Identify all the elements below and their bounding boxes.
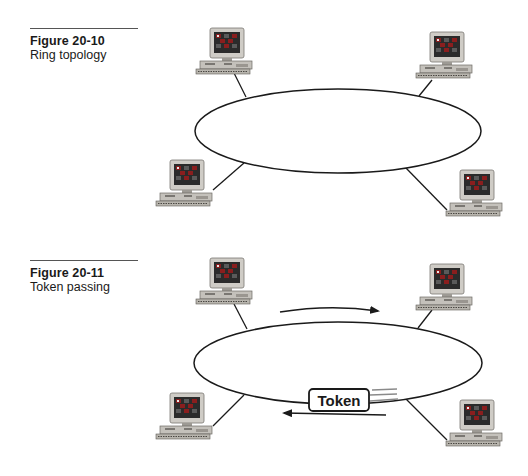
ring-cable bbox=[195, 89, 481, 173]
token-badge: Token bbox=[309, 389, 369, 411]
computer-workstation-icon bbox=[416, 32, 472, 78]
arrow-icon bbox=[280, 308, 378, 312]
arrow-icon bbox=[284, 413, 386, 415]
token-label: Token bbox=[317, 392, 360, 409]
link-line bbox=[234, 304, 247, 329]
link-line bbox=[418, 310, 432, 328]
computer-workstation-icon bbox=[446, 400, 502, 446]
link-line bbox=[234, 73, 246, 97]
computer-workstation-icon bbox=[156, 160, 212, 206]
computer-workstation-icon bbox=[446, 170, 502, 216]
computer-workstation-icon bbox=[196, 28, 252, 74]
ring-topology-diagram bbox=[156, 28, 502, 216]
token-passing-diagram: Token bbox=[156, 258, 502, 446]
link-line bbox=[213, 395, 244, 426]
link-line bbox=[213, 163, 244, 190]
link-line bbox=[405, 398, 447, 440]
computer-workstation-icon bbox=[156, 393, 212, 439]
link-line bbox=[405, 167, 447, 210]
link-line bbox=[419, 80, 432, 96]
computer-workstation-icon bbox=[196, 258, 252, 304]
computer-workstation-icon bbox=[416, 264, 472, 310]
network-diagrams: Token bbox=[0, 0, 528, 476]
